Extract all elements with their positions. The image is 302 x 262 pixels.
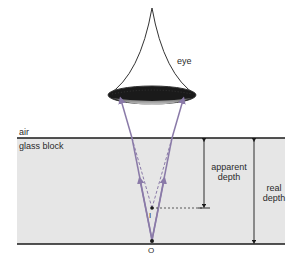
image-point-label: I [149,211,151,221]
glass-block-label: glass block [19,141,64,151]
glass-block-region [17,138,285,244]
apparent-depth-label: apparent depth [207,162,251,182]
eye-label: eye [177,56,192,66]
image-point-icon [150,206,154,210]
real-depth-label: real depth [258,183,290,203]
object-point-label: O [148,246,154,256]
eye-outline-icon [108,8,196,95]
air-label: air [19,127,29,137]
diagram-canvas [0,0,302,262]
apparent-depth-diagram: eye air glass block apparent depth real … [0,0,302,262]
object-point-icon [150,239,154,243]
